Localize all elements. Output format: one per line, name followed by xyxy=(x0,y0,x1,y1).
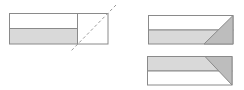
strip-bottom-half-shaded xyxy=(10,29,78,45)
original-strip xyxy=(10,5,117,52)
folded-result-b xyxy=(148,57,233,86)
strip-top-half xyxy=(10,14,78,29)
result-b-bottom-half xyxy=(148,71,233,85)
fold-diagram xyxy=(0,0,244,90)
folded-result-a xyxy=(149,16,234,45)
